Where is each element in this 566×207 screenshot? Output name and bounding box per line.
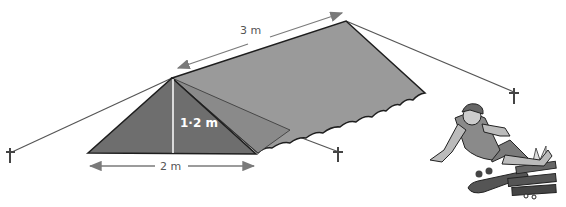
peg-front-right	[333, 147, 343, 162]
width-label: 2 m	[160, 160, 181, 173]
peg-left	[6, 148, 15, 163]
length-label: 3 m	[240, 24, 261, 37]
height-label: 1·2 m	[180, 116, 218, 130]
boy-figure	[430, 104, 556, 199]
tent-diagram: 1·2 m 3 m 2 m	[0, 0, 566, 207]
